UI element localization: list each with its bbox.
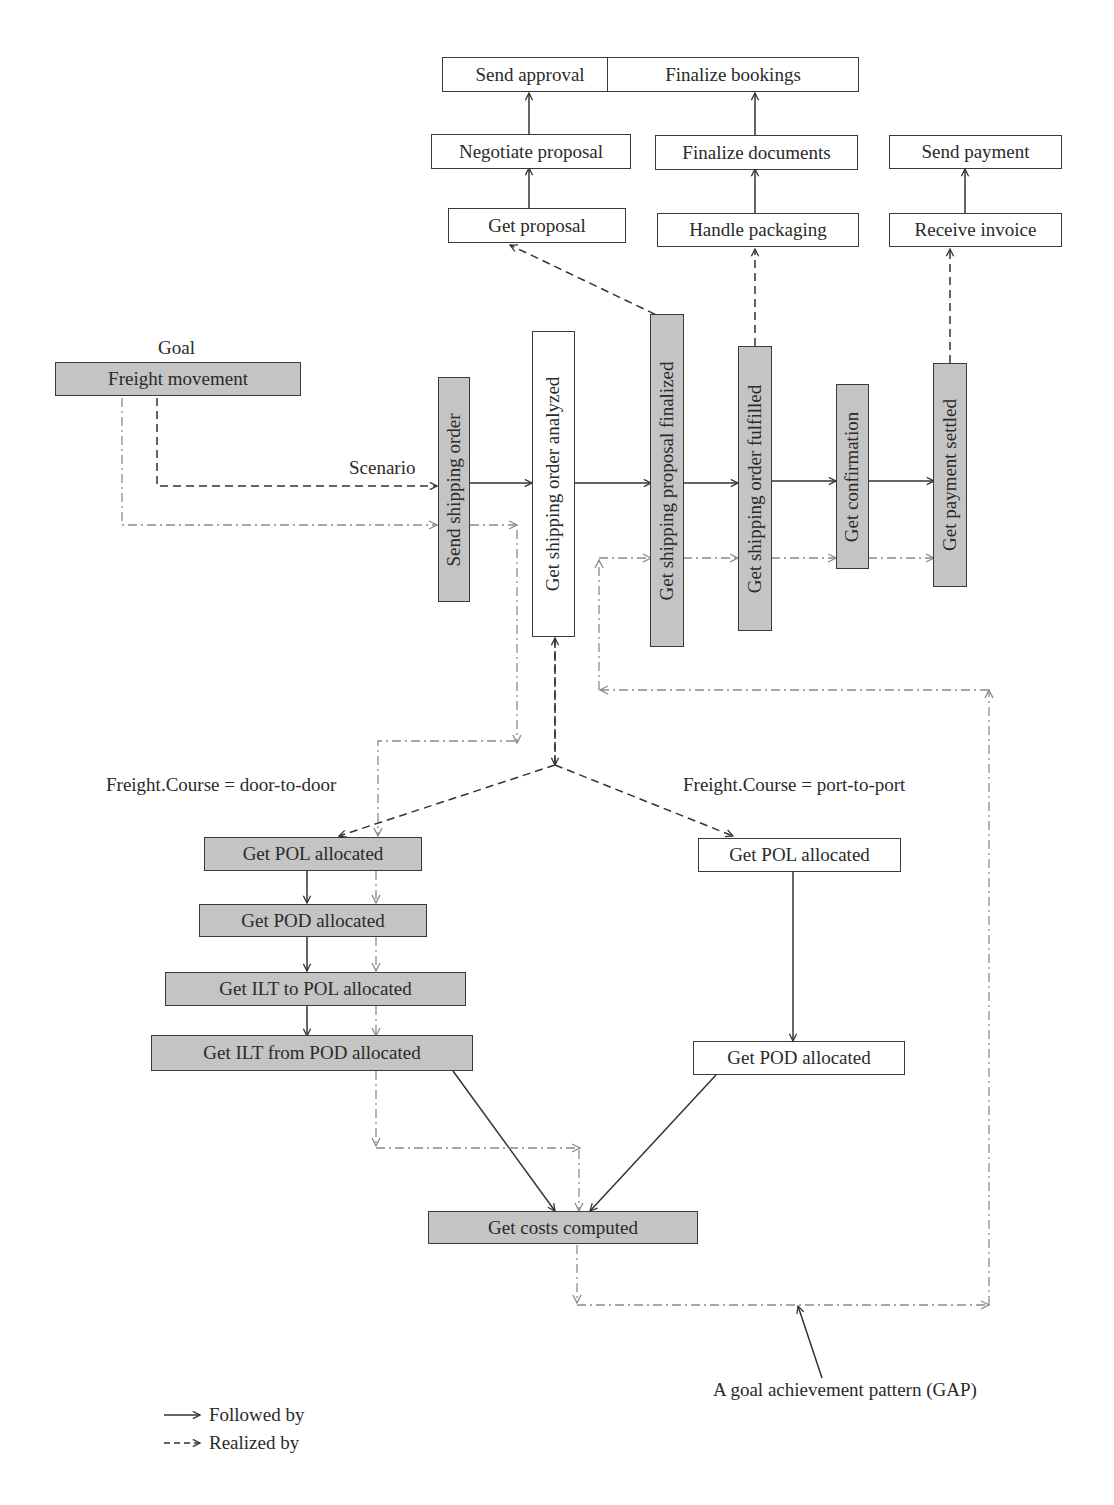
get-payment-settled-label: Get payment settled [939,399,961,551]
get-shipping-order-fulfilled-box[interactable]: Get shipping order fulfilled [738,346,772,631]
finalize-bookings-box[interactable]: Finalize bookings [607,57,859,92]
p2p-get-pol-allocated-box[interactable]: Get POL allocated [698,838,901,872]
d2d-get-ilt-from-pod-allocated-box[interactable]: Get ILT from POD allocated [151,1035,473,1071]
d2d-get-ilt-to-pol-allocated-box[interactable]: Get ILT to POL allocated [165,972,466,1006]
goal-freight-movement[interactable]: Freight movement [55,362,301,396]
get-shipping-order-analyzed-box[interactable]: Get shipping order analyzed [532,331,575,637]
finalize-documents-box[interactable]: Finalize documents [655,135,858,170]
scenario-label: Scenario [349,457,415,479]
negotiate-proposal-box[interactable]: Negotiate proposal [431,134,631,169]
handle-packaging-box[interactable]: Handle packaging [657,213,859,247]
port-to-port-condition: Freight.Course = port-to-port [683,774,905,796]
legend-followed-by: Followed by [209,1404,305,1426]
send-payment-box[interactable]: Send payment [889,135,1062,169]
receive-invoice-box[interactable]: Receive invoice [889,213,1062,247]
get-confirmation-box[interactable]: Get confirmation [836,384,869,569]
get-payment-settled-box[interactable]: Get payment settled [933,363,967,587]
legend-realized-by: Realized by [209,1432,299,1454]
d2d-get-pod-allocated-box[interactable]: Get POD allocated [199,904,427,937]
get-shipping-proposal-finalized-label: Get shipping proposal finalized [656,361,678,600]
get-proposal-box[interactable]: Get proposal [448,208,626,243]
p2p-get-pod-allocated-box[interactable]: Get POD allocated [693,1041,905,1075]
get-confirmation-label: Get confirmation [842,411,864,541]
goal-caption: Goal [158,337,195,359]
d2d-get-pol-allocated-box[interactable]: Get POL allocated [204,837,422,871]
send-approval-box[interactable]: Send approval [442,57,618,92]
get-shipping-order-fulfilled-label: Get shipping order fulfilled [744,384,766,592]
get-shipping-proposal-finalized-box[interactable]: Get shipping proposal finalized [650,314,684,647]
send-shipping-order-box[interactable]: Send shipping order [438,377,470,602]
get-shipping-order-analyzed-label: Get shipping order analyzed [543,377,565,592]
door-to-door-condition: Freight.Course = door-to-door [106,774,336,796]
gap-annotation: A goal achievement pattern (GAP) [713,1379,977,1401]
send-shipping-order-label: Send shipping order [443,413,465,566]
get-costs-computed-box[interactable]: Get costs computed [428,1211,698,1244]
